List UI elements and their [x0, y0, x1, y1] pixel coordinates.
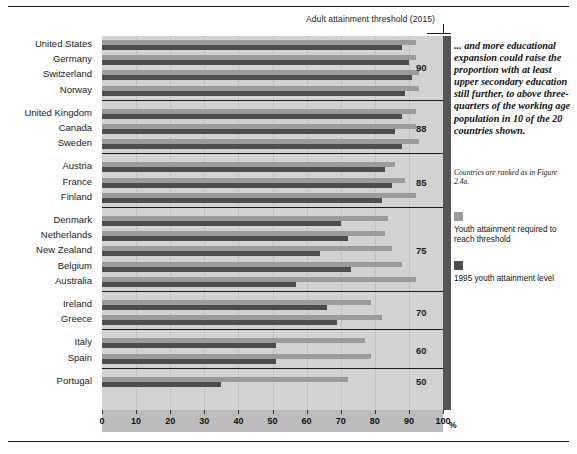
group-separator: [102, 100, 443, 101]
bar-1995: [102, 305, 327, 310]
source-note: Countries are ranked as in Figure 2.4a.: [454, 168, 566, 186]
x-tick: [204, 410, 205, 414]
group-separator: [102, 368, 443, 369]
x-tick-label: 20: [165, 416, 175, 426]
group-separator: [102, 291, 443, 292]
country-label: Greece: [61, 314, 92, 324]
group-separator: [102, 329, 443, 330]
x-tick-label: 70: [336, 416, 346, 426]
country-label: Norway: [60, 85, 92, 95]
bar-1995: [102, 167, 385, 172]
group-separator: [102, 153, 443, 154]
threshold-leader-horizontal: [427, 33, 451, 34]
country-label: Finland: [61, 192, 92, 202]
bottom-rule: [8, 441, 569, 442]
country-label: Canada: [59, 123, 92, 133]
threshold-value: 60: [416, 345, 427, 356]
callout-text: ... and more educational expansion could…: [454, 40, 572, 137]
side-panel: ... and more educational expansion could…: [452, 36, 574, 410]
threshold-value: 50: [416, 376, 427, 387]
x-tick: [375, 410, 376, 414]
x-tick-label: 30: [199, 416, 209, 426]
threshold-value: 88: [416, 123, 427, 134]
country-label: Netherlands: [41, 230, 92, 240]
bar-1995: [102, 267, 351, 272]
threshold-value: 85: [416, 177, 427, 188]
country-label: Italy: [75, 337, 92, 347]
x-tick-label: 60: [302, 416, 312, 426]
bar-1995: [102, 359, 276, 364]
legend-swatch-required: [454, 212, 463, 221]
x-tick-label: 0: [99, 416, 104, 426]
x-tick: [170, 410, 171, 414]
country-label: Ireland: [63, 299, 92, 309]
bar-1995: [102, 236, 348, 241]
top-rule: [8, 6, 569, 7]
legend-label: 1995 youth attainment level: [454, 274, 572, 284]
country-label: Switzerland: [43, 69, 92, 79]
gridline: [409, 36, 410, 410]
bar-1995: [102, 144, 402, 149]
country-label: Austria: [62, 161, 92, 171]
country-label: New Zealand: [36, 245, 92, 255]
bar-1995: [102, 60, 409, 65]
country-label: Denmark: [53, 215, 92, 225]
bar-1995: [102, 183, 392, 188]
x-tick: [341, 410, 342, 414]
bar-1995: [102, 45, 402, 50]
country-label: Spain: [68, 353, 92, 363]
bar-1995: [102, 221, 341, 226]
bar-1995: [102, 91, 405, 96]
bar-1995: [102, 129, 395, 134]
figure-panel: Adult attainment threshold (2015) United…: [0, 0, 577, 454]
country-label-column: United StatesGermanySwitzerlandNorwayUni…: [0, 36, 98, 410]
x-tick-label: 80: [370, 416, 380, 426]
group-separator: [102, 207, 443, 208]
threshold-value: 75: [416, 245, 427, 256]
legend-swatch-1995: [454, 261, 463, 270]
country-label: Portugal: [57, 376, 92, 386]
threshold-value: 90: [416, 62, 427, 73]
bar-1995: [102, 75, 412, 80]
bar-1995: [102, 251, 320, 256]
x-tick: [409, 410, 410, 414]
adult-threshold-band: [443, 36, 451, 410]
bar-1995: [102, 343, 276, 348]
country-label: United States: [35, 39, 92, 49]
x-tick-label: 10: [131, 416, 141, 426]
bar-1995: [102, 114, 402, 119]
x-tick: [102, 410, 103, 414]
x-tick: [307, 410, 308, 414]
country-label: France: [62, 177, 92, 187]
country-label: Germany: [53, 54, 92, 64]
x-axis: 0102030405060708090100: [102, 410, 443, 432]
country-label: Belgium: [58, 261, 92, 271]
country-label: Australia: [55, 276, 92, 286]
bar-1995: [102, 198, 382, 203]
legend-label: Youth attainment required to reach thres…: [454, 225, 572, 244]
threshold-title: Adult attainment threshold (2015): [306, 14, 435, 24]
x-tick-label: 90: [404, 416, 414, 426]
x-tick: [443, 410, 444, 414]
bar-1995: [102, 282, 296, 287]
country-label: United Kingdom: [24, 108, 92, 118]
bar-1995: [102, 382, 221, 387]
x-tick-label: 40: [233, 416, 243, 426]
bar-1995: [102, 320, 337, 325]
country-label: Sweden: [58, 138, 92, 148]
x-tick: [273, 410, 274, 414]
threshold-value: 70: [416, 307, 427, 318]
x-tick: [238, 410, 239, 414]
plot-area: [102, 36, 443, 410]
x-tick: [136, 410, 137, 414]
x-axis-unit: %: [449, 420, 457, 430]
x-tick-label: 50: [267, 416, 277, 426]
